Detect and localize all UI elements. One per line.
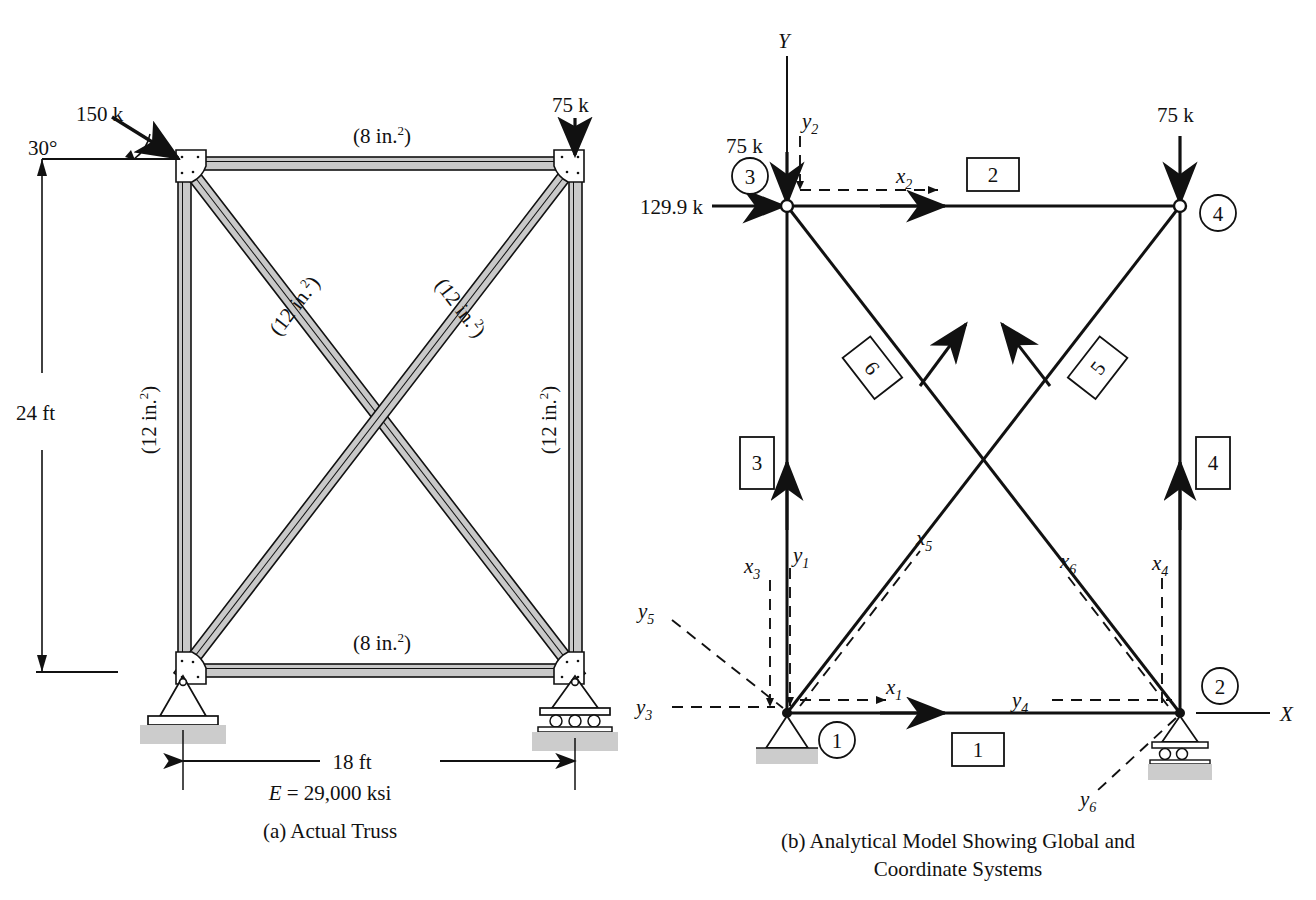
- svg-text:5: 5: [1085, 356, 1110, 379]
- local-axis-x1-label: x1: [885, 675, 902, 703]
- local-axis-x4-label: x4: [1151, 551, 1168, 579]
- local-axis-x3-label: x3: [743, 554, 760, 582]
- global-axis-X-label: X: [1279, 702, 1294, 726]
- member-id-2: 2: [967, 158, 1019, 191]
- svg-text:6: 6: [859, 356, 884, 379]
- svg-text:1: 1: [973, 738, 984, 762]
- svg-text:4: 4: [1208, 451, 1219, 475]
- svg-text:2: 2: [988, 163, 999, 187]
- member-id-5: 5: [1068, 336, 1128, 399]
- local-axis-y3-label: y3: [634, 695, 652, 723]
- local-axis-y6-label: y6: [1078, 787, 1096, 815]
- local-axis-x5-label: x5: [915, 526, 932, 554]
- load-129k-node3-label: 129.9 k: [640, 195, 704, 219]
- local-axis-y1-label: y1: [791, 543, 809, 571]
- local-axis-arrowheads: [766, 181, 938, 707]
- local-axis-y5-label: y5: [636, 599, 654, 627]
- node-id-3: 3: [732, 158, 768, 194]
- svg-text:2: 2: [1215, 675, 1226, 699]
- svg-text:3: 3: [752, 451, 763, 475]
- panel-b-caption-line2: Coordinate Systems: [874, 857, 1043, 881]
- member-id-3: 3: [740, 437, 774, 489]
- local-axis-x2-label: x2: [895, 164, 912, 192]
- local-axis-y4-label: y4: [1010, 688, 1028, 716]
- svg-text:3: 3: [745, 165, 756, 189]
- member-id-4: 4: [1196, 437, 1230, 489]
- figure-panel-b: Y X 75 k 129.9 k 75 k 3 4 1 2: [0, 0, 1316, 900]
- node-id-4: 4: [1200, 195, 1236, 231]
- truss-members-analytical: [787, 206, 1180, 713]
- member-id-1: 1: [952, 733, 1004, 766]
- local-axes-dashed: [672, 136, 1176, 790]
- svg-text:4: 4: [1213, 202, 1224, 226]
- member-direction-arrows: [787, 206, 1180, 713]
- pin-support-node1: [756, 716, 818, 764]
- joint-marker-node2: [1176, 709, 1184, 717]
- svg-text:1: 1: [832, 729, 843, 753]
- roller-support-node2: [1148, 716, 1212, 780]
- member-id-6: 6: [843, 336, 903, 399]
- node-id-2: 2: [1202, 668, 1238, 704]
- joint-marker-node4: [1174, 200, 1186, 212]
- joint-marker-node1: [783, 709, 791, 717]
- node-id-1: 1: [819, 722, 855, 758]
- local-axis-x6-label: x6: [1059, 549, 1076, 577]
- global-axis-Y-label: Y: [778, 29, 792, 53]
- joint-marker-node3: [781, 200, 793, 212]
- local-axis-y2-label: y2: [800, 109, 818, 137]
- load-75k-node3-label: 75 k: [726, 134, 763, 158]
- load-75k-node4-label: 75 k: [1157, 103, 1194, 127]
- panel-b-caption-line1: (b) Analytical Model Showing Global and: [781, 829, 1136, 853]
